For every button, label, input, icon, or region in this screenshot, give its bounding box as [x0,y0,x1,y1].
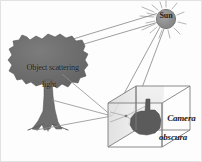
sun-spoke-icon [168,30,170,38]
sun-spoke-icon [146,21,155,23]
sun-spoke-icon [159,30,162,38]
sun-spoke-icon [172,3,177,9]
camera-label-line2: obscura [159,133,202,142]
sun-spoke-long-icon [142,7,154,12]
sun-spoke-icon [177,12,184,15]
camera-label-line1: Camera [167,113,195,123]
object-label-line2: light [13,81,85,90]
sun-label: Sun [155,12,177,20]
sun-spoke-icon [174,28,180,34]
object-scattering-light-label: Object scattering light [13,55,85,107]
sun-spoke-icon [150,27,157,33]
box-edge-connector [162,86,190,103]
sun-spoke-icon [152,5,158,10]
camera-obscura-label: Camera obscura [159,105,202,162]
object-label-line1: Object scattering [27,63,79,72]
camera-obscura-diagram: Sun Object scattering light Camera obscu… [0,0,202,162]
sun-spoke-icon [178,22,186,24]
sun-spoke-icon [160,2,162,8]
box-left-face [108,86,136,147]
